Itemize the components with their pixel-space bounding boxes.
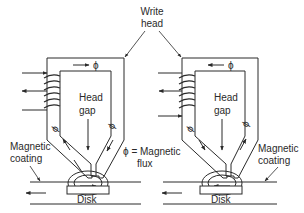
disk-section (67, 186, 109, 194)
svg-text:ϕ: ϕ (228, 60, 234, 71)
svg-text:gap: gap (79, 105, 96, 116)
disk-section-right (200, 186, 242, 194)
svg-text:Disk: Disk (77, 194, 97, 205)
flux-legend: ϕ = Magnetic flux (123, 146, 181, 169)
svg-text:Disk: Disk (211, 194, 231, 205)
svg-text:Magnetic: Magnetic (10, 141, 51, 152)
svg-text:Write: Write (140, 6, 164, 17)
svg-text:flux: flux (137, 158, 153, 169)
svg-text:coating: coating (258, 155, 290, 166)
left-write-head: ϕ ϕ ϕ Head gap Disk (22, 58, 124, 205)
svg-text:gap: gap (214, 105, 231, 116)
svg-text:Head: Head (79, 92, 103, 103)
svg-text:ϕ: ϕ (93, 60, 99, 71)
write-head-pointer-left (125, 31, 145, 57)
magnetic-coating-pointer-left (30, 166, 40, 181)
write-head-pointer-right (159, 31, 181, 57)
magnetic-coating-label-left: Magnetic coating (10, 141, 51, 164)
svg-text:head: head (141, 18, 163, 29)
magnetic-coating-pointer-right (265, 167, 278, 181)
magnetic-coating-label-right: Magnetic coating (258, 143, 299, 166)
magnetic-write-head-diagram: Write head ϕ ϕ ϕ Head ga (0, 0, 304, 213)
svg-text:ϕ = Magnetic: ϕ = Magnetic (123, 146, 181, 157)
svg-text:Magnetic: Magnetic (258, 143, 299, 154)
write-head-label: Write head (140, 6, 164, 29)
svg-text:coating: coating (10, 153, 42, 164)
right-write-head: ϕ ϕ ϕ Head gap Disk (158, 58, 258, 205)
svg-text:Head: Head (214, 92, 238, 103)
